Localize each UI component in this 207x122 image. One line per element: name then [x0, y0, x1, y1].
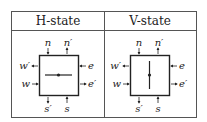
label-e: e — [88, 60, 94, 71]
header-h-state: H-state — [36, 14, 81, 28]
label-n: n — [136, 37, 142, 48]
label-e-prime: e′ — [88, 78, 97, 89]
label-w: w — [112, 78, 121, 89]
label-w-prime: w′ — [110, 60, 122, 71]
label-e-prime: e′ — [179, 78, 188, 89]
v-state-cell: n n′ w′ w e e′ s′ s — [110, 37, 188, 114]
label-s: s — [155, 103, 160, 114]
label-n-prime: n′ — [64, 37, 73, 48]
label-w-prime: w′ — [19, 60, 31, 71]
label-s-prime: s′ — [135, 103, 143, 114]
label-n: n — [45, 37, 51, 48]
label-s-prime: s′ — [44, 103, 52, 114]
label-e: e — [179, 60, 185, 71]
center-dot — [57, 73, 60, 76]
label-s: s — [64, 103, 69, 114]
h-state-cell: n n′ w′ w e e′ s′ s — [19, 37, 97, 114]
header-v-state: V-state — [128, 14, 171, 28]
center-dot — [148, 73, 151, 76]
label-n-prime: n′ — [155, 37, 164, 48]
state-diagram-table: H-state V-state n n′ w′ w e e′ s′ s — [0, 0, 207, 122]
label-w: w — [21, 78, 30, 89]
